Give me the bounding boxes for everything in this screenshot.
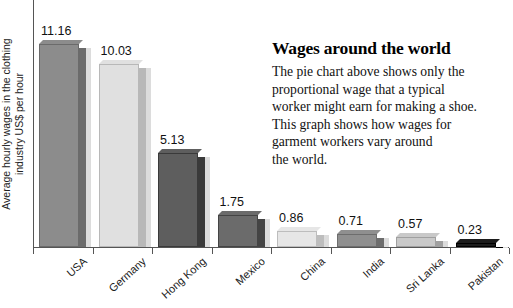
bar-shadow	[265, 219, 270, 247]
bar-side-face	[79, 48, 86, 247]
bar-front-face	[337, 234, 377, 247]
article-line: the world.	[272, 151, 510, 169]
x-label-pakistan: Pakistan	[466, 255, 505, 292]
x-label-india: India	[360, 255, 386, 280]
y-axis-label: Average hourly wages in the clothing ind…	[0, 0, 30, 250]
bar-shadow	[86, 48, 91, 247]
bar-value-label: 0.71	[339, 214, 363, 228]
bar-side-face	[377, 238, 384, 247]
x-axis-tick	[152, 248, 153, 254]
bar-top-face	[337, 230, 381, 234]
article-line: proportional wage that a typical	[272, 81, 510, 99]
bar-front-face	[99, 64, 139, 247]
bar-value-label: 11.16	[41, 24, 71, 38]
bar-value-label: 1.75	[220, 195, 244, 209]
bar-front-face	[456, 243, 496, 247]
bar-front-face	[218, 215, 258, 247]
bar-china[interactable]	[277, 231, 317, 247]
bar-shadow	[146, 68, 151, 247]
bar-germany[interactable]	[99, 64, 139, 247]
bar-top-face	[39, 40, 83, 44]
bar-side-face	[139, 68, 146, 247]
x-label-china: China	[297, 255, 326, 283]
y-axis-label-line-2: industry US$ per hour	[13, 0, 26, 248]
bar-top-face	[99, 60, 143, 64]
bar-front-face	[158, 153, 198, 247]
bar-shadow	[443, 241, 448, 247]
y-axis-label-line-1: Average hourly wages in the clothing	[0, 0, 13, 248]
bar-side-face	[317, 235, 324, 247]
bar-hong-kong[interactable]	[158, 153, 198, 247]
bar-top-face	[158, 149, 202, 153]
bar-mexico[interactable]	[218, 215, 258, 247]
x-axis-tick	[212, 248, 213, 254]
bar-top-face	[218, 211, 262, 215]
bar-front-face	[277, 231, 317, 247]
article-line: worker might earn for making a shoe.	[272, 98, 510, 116]
article-line: garment workers vary around	[272, 133, 510, 151]
bar-top-face	[456, 239, 500, 243]
bar-top-face	[396, 233, 440, 237]
bar-top-face	[277, 227, 321, 231]
bar-group	[152, 0, 212, 247]
bar-value-label: 10.03	[101, 44, 132, 58]
x-axis-tick	[331, 248, 332, 254]
bar-shadow	[324, 235, 329, 247]
x-label-germany: Germany	[106, 255, 148, 294]
wages-bar-chart-figure: Average hourly wages in the clothing ind…	[0, 0, 513, 308]
article-line: This graph shows how wages for	[272, 116, 510, 134]
bar-side-face	[258, 219, 265, 247]
bar-group	[93, 0, 153, 247]
article-body: The pie chart above shows only thepropor…	[272, 63, 510, 169]
bar-pakistan[interactable]	[456, 243, 496, 247]
x-label-hong-kong: Hong Kong	[159, 255, 208, 301]
bar-group	[212, 0, 272, 247]
bar-sri-lanka[interactable]	[396, 237, 436, 247]
article-text-block: Wages around the world The pie chart abo…	[272, 38, 510, 169]
bar-front-face	[39, 44, 79, 247]
x-axis-tick	[93, 248, 94, 254]
article-title: Wages around the world	[272, 38, 510, 58]
bar-value-label: 0.23	[458, 223, 482, 237]
x-label-sri-lanka: Sri Lanka	[403, 255, 446, 295]
x-axis-tick	[271, 248, 272, 254]
x-axis-tick	[509, 248, 510, 254]
x-label-mexico: Mexico	[233, 255, 267, 287]
bar-front-face	[396, 237, 436, 247]
x-axis-tick	[390, 248, 391, 254]
bar-value-label: 5.13	[160, 133, 184, 147]
article-line: The pie chart above shows only the	[272, 63, 510, 81]
bar-usa[interactable]	[39, 44, 79, 247]
bar-value-label: 0.86	[279, 211, 303, 225]
bar-side-face	[436, 241, 443, 247]
bar-value-label: 0.57	[398, 217, 422, 231]
bar-india[interactable]	[337, 234, 377, 247]
bar-shadow	[205, 157, 210, 247]
bar-shadow	[384, 238, 389, 247]
bar-side-face	[198, 157, 205, 247]
x-axis-tick	[450, 248, 451, 254]
x-label-usa: USA	[64, 255, 89, 279]
x-axis-tick	[33, 248, 34, 254]
